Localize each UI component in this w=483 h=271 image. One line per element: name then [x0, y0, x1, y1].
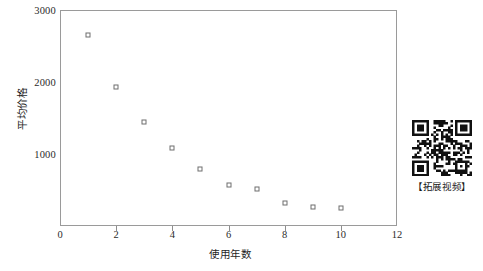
data-point — [254, 187, 259, 192]
data-point — [142, 119, 147, 124]
scatter-chart-figure: 100020003000 024681012 使用年数 平均价格 — [0, 0, 400, 271]
y-axis-tick-label: 2000 — [4, 77, 56, 88]
x-axis-tick-label: 8 — [265, 229, 305, 240]
y-axis-title: 平均价格 — [14, 74, 29, 144]
x-axis-tick-label: 2 — [96, 229, 136, 240]
plot-area — [60, 10, 397, 226]
x-axis-tick-label: 0 — [40, 229, 80, 240]
data-point — [226, 182, 231, 187]
data-point — [114, 85, 119, 90]
data-point — [170, 146, 175, 151]
data-point — [86, 33, 91, 38]
x-axis-tick-label: 4 — [152, 229, 192, 240]
qr-caption: 【拓展视频】 — [405, 179, 479, 193]
data-point — [198, 167, 203, 172]
x-axis-tick-label: 6 — [209, 229, 249, 240]
y-axis-tick-label: 1000 — [4, 149, 56, 160]
data-point — [310, 204, 315, 209]
y-axis-tick-label: 3000 — [4, 5, 56, 16]
screenshot-root: 100020003000 024681012 使用年数 平均价格 【拓展视频】 — [0, 0, 483, 271]
data-point — [282, 200, 287, 205]
data-point — [338, 206, 343, 211]
qr-code-icon[interactable] — [412, 120, 472, 176]
x-axis-tick-label: 12 — [377, 229, 417, 240]
x-axis-tick-label: 10 — [321, 229, 361, 240]
qr-code-block[interactable]: 【拓展视频】 — [405, 120, 479, 193]
x-axis-title: 使用年数 — [0, 246, 460, 261]
